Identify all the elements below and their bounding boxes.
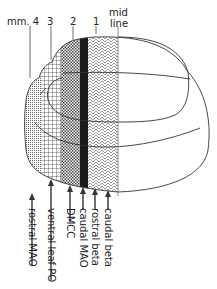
arrow-head-3 — [67, 185, 73, 192]
zone-4-stipple — [20, 30, 41, 200]
label-zone-3: 3 — [47, 17, 53, 27]
label-dmcc: DMCC — [65, 208, 75, 238]
label-zone-1: 1 — [93, 17, 99, 27]
zone-1-chevron — [88, 30, 118, 200]
zone-black-band — [80, 30, 88, 200]
label-caudal-mao: caudal MAO — [78, 208, 88, 268]
zone-2-checker — [61, 30, 80, 200]
label-rostral-beta: rostral beta — [90, 208, 100, 266]
label-mm4: mm. 4 — [7, 17, 39, 27]
arrow-head-1 — [29, 193, 35, 200]
label-midline-1: mid — [109, 8, 128, 18]
label-midline-2: line — [110, 19, 128, 29]
label-rostral-mao: rostral MAO — [27, 208, 37, 267]
label-ventral-leaf-po: ventral leaf PO — [46, 208, 56, 282]
label-zone-2: 2 — [70, 17, 76, 27]
zone-bands — [20, 30, 118, 200]
arrow-head-2 — [48, 179, 54, 186]
upper-lobe-edge — [118, 37, 189, 122]
label-caudal-beta: caudal beta — [103, 208, 113, 267]
